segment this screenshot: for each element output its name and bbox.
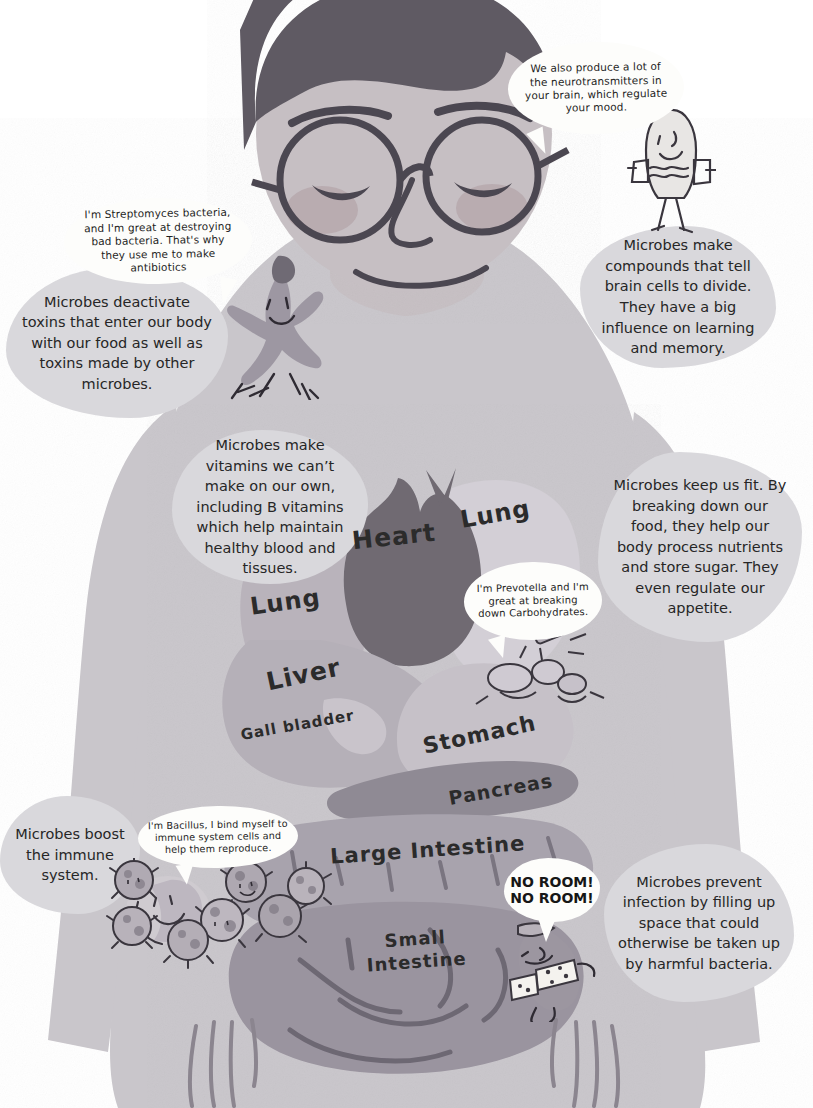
no-room-line-1: NO ROOM! (510, 874, 593, 890)
balloon-tail (175, 864, 195, 886)
no-room-line-2: NO ROOM! (510, 890, 593, 906)
callout-vitamins: Microbes make vitamins we can’t make on … (172, 430, 368, 584)
balloon-streptomyces-text: I'm Streptomyces bacteria, and I'm great… (77, 206, 238, 276)
balloon-no-room: NO ROOM! NO ROOM! (504, 858, 600, 922)
callout-toxins: Microbes deactivate toxins that enter ou… (6, 268, 228, 418)
callout-fitness: Microbes keep us fit. By breaking down o… (598, 452, 802, 642)
balloon-neurotransmitters-text: We also produce a lot of the neurotransm… (524, 60, 669, 116)
organ-label-text: Small (384, 926, 447, 951)
balloon-prevotella-text: I'm Prevotella and I'm great at breaking… (476, 581, 591, 621)
balloon-tail (538, 918, 556, 942)
callout-brain-text: Microbes make compounds that tell brain … (594, 235, 762, 358)
callout-infection: Microbes prevent infection by filling up… (604, 844, 794, 1002)
balloon-bacillus-text: I'm Bacillus, I bind myself to immune sy… (148, 817, 289, 856)
callout-toxins-text: Microbes deactivate toxins that enter ou… (22, 292, 212, 395)
callout-brain: Microbes make compounds that tell brain … (580, 226, 776, 368)
bacteria-ball (110, 858, 158, 899)
organ-label-small-intestine: Small Intestine (365, 925, 468, 977)
illustration-canvas: Microbes deactivate toxins that enter ou… (0, 0, 813, 1108)
callout-infection-text: Microbes prevent infection by filling up… (616, 872, 782, 975)
callout-fitness-text: Microbes keep us fit. By breaking down o… (612, 475, 788, 619)
balloon-streptomyces: I'm Streptomyces bacteria, and I'm great… (63, 196, 252, 285)
microbe-bacillus-cluster (104, 858, 336, 976)
callout-vitamins-text: Microbes make vitamins we can’t make on … (184, 435, 356, 579)
